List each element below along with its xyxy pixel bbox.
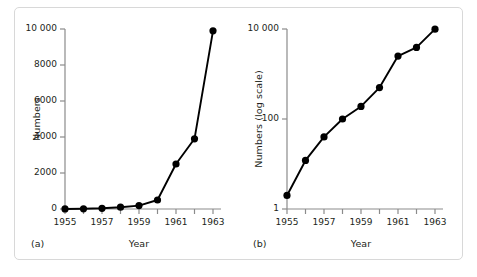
y-tick-label: 6000 bbox=[34, 95, 57, 105]
y-tick-label: 0 bbox=[51, 203, 57, 213]
x-tick-label: 1957 bbox=[304, 217, 344, 227]
x-tick-label: 1959 bbox=[341, 217, 381, 227]
panel-label-b: (b) bbox=[253, 238, 266, 249]
x-tick-label: 1955 bbox=[45, 217, 85, 227]
x-axis-title-b: Year bbox=[331, 238, 391, 249]
y-tick-label: 8000 bbox=[34, 59, 57, 69]
x-axis-title-a: Year bbox=[109, 238, 169, 249]
x-tick-label: 1961 bbox=[378, 217, 418, 227]
y-tick-label: 10 000 bbox=[248, 23, 280, 33]
panel-label-a: (a) bbox=[31, 238, 44, 249]
y-tick-label: 2000 bbox=[34, 167, 57, 177]
y-tick-label: 100 bbox=[262, 113, 279, 123]
x-tick-label: 1959 bbox=[119, 217, 159, 227]
y-tick-label: 1 bbox=[273, 203, 279, 213]
x-tick-label: 1955 bbox=[267, 217, 307, 227]
x-tick-label: 1961 bbox=[156, 217, 196, 227]
figure-frame: Numbers Year (a) 0200040006000800010 000… bbox=[14, 7, 463, 260]
chart-panel-a: Numbers Year (a) 0200040006000800010 000… bbox=[17, 8, 241, 261]
x-tick-label: 1963 bbox=[193, 217, 233, 227]
y-tick-label: 10 000 bbox=[26, 23, 58, 33]
chart-panel-b: Numbers (log scale) Year (b) 110010 0001… bbox=[239, 8, 463, 261]
x-tick-label: 1963 bbox=[415, 217, 455, 227]
y-tick-label: 4000 bbox=[34, 131, 57, 141]
x-tick-label: 1957 bbox=[82, 217, 122, 227]
